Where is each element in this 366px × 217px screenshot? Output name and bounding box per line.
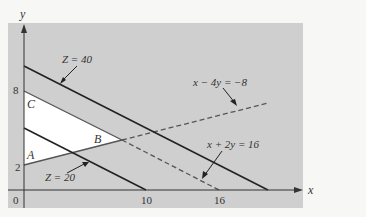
linear-programming-graph: y x 0 10 16 8 2 A B C Z = 40 Z = 20 x − …: [0, 0, 366, 217]
x-axis-label: x: [307, 183, 314, 197]
point-b-label: B: [94, 132, 102, 146]
point-a-label: A: [26, 148, 35, 162]
origin-label: 0: [13, 194, 19, 206]
z20-label: Z = 20: [45, 171, 76, 183]
x-tick-10: 10: [141, 194, 153, 206]
y-tick-2: 2: [15, 161, 21, 173]
y-tick-8: 8: [13, 84, 19, 96]
y-axis-label: y: [19, 7, 26, 21]
z40-label: Z = 40: [62, 53, 93, 65]
point-c-label: C: [27, 97, 36, 111]
constraint-line-2-label: x + 2y = 16: [206, 138, 260, 150]
constraint-line-1-label: x − 4y = −8: [192, 76, 248, 88]
x-tick-16: 16: [214, 194, 226, 206]
